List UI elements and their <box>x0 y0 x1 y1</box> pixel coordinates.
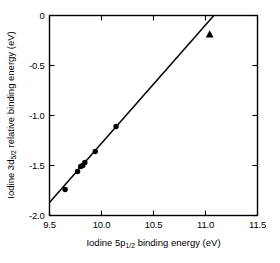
data-point-triangle <box>206 30 214 37</box>
data-point-circle <box>62 187 67 192</box>
x-tick-label: 9.5 <box>43 219 56 230</box>
y-axis-title: Iodine 3d5/2 relative binding energy (eV… <box>5 31 17 198</box>
data-point-circle <box>82 160 87 165</box>
plot-frame <box>50 16 258 216</box>
y-tick-label: 0 <box>39 10 44 21</box>
x-tick-label: 10.0 <box>93 219 111 230</box>
y-tick-label: -1.0 <box>29 110 45 121</box>
scatter-plot: 9.510.010.511.011.50-0.5-1.0-1.5-2.0Iodi… <box>0 0 280 263</box>
data-point-circle <box>113 124 118 129</box>
x-tick-label: 11.5 <box>249 219 266 230</box>
figure-container: 9.510.010.511.011.50-0.5-1.0-1.5-2.0Iodi… <box>0 0 280 263</box>
x-tick-label: 11.0 <box>197 219 214 230</box>
series-triangle <box>206 30 214 37</box>
y-axis-title-text: Iodine 3d5/2 relative binding energy (eV… <box>5 31 17 198</box>
data-point-circle <box>93 149 98 154</box>
x-axis-title: Iodine 5p1/2 binding energy (eV) <box>86 237 220 249</box>
x-tick-label: 10.5 <box>145 219 163 230</box>
data-point-circle <box>75 169 80 174</box>
y-tick-label: -0.5 <box>29 60 45 71</box>
y-tick-label: -2.0 <box>29 210 45 221</box>
x-axis-title-text: Iodine 5p1/2 binding energy (eV) <box>86 237 220 249</box>
y-tick-label: -1.5 <box>29 160 45 171</box>
fit-line <box>50 16 214 203</box>
